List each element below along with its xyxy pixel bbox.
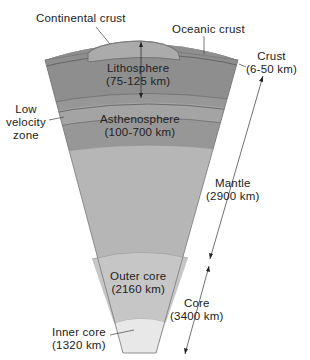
crust-depth: (6-50 km) [246, 63, 297, 76]
core-depth: (3400 km) [170, 310, 224, 323]
mantle-depth: (2900 km) [206, 190, 260, 203]
outer-core-depth: (2160 km) [110, 283, 166, 296]
lithosphere-name: Lithosphere [106, 62, 170, 75]
crust-leader [239, 64, 246, 67]
low-velocity-line-1: Low [6, 103, 46, 116]
core-name: Core [170, 297, 224, 310]
asthenosphere-depth: (100-700 km) [100, 126, 180, 139]
inner-core-depth: (1320 km) [52, 339, 106, 352]
outer-core-name: Outer core [110, 270, 166, 283]
low-velocity-line-3: zone [6, 129, 46, 142]
inner-core-name: Inner core [52, 326, 106, 339]
crust-name: Crust [246, 50, 297, 63]
asthenosphere-label: Asthenosphere (100-700 km) [100, 113, 180, 139]
continental-crust-label: Continental crust [36, 12, 126, 25]
low-velocity-line-2: velocity [6, 116, 46, 129]
low-velocity-zone-label: Low velocity zone [6, 103, 46, 142]
oceanic-crust-label: Oceanic crust [172, 23, 245, 36]
mantle-name: Mantle [206, 177, 260, 190]
core-label: Core (3400 km) [170, 297, 224, 323]
crust-label: Crust (6-50 km) [246, 50, 297, 76]
lithosphere-label: Lithosphere (75-125 km) [106, 62, 170, 88]
outer-core-label: Outer core (2160 km) [110, 270, 166, 296]
mantle-label: Mantle (2900 km) [206, 177, 260, 203]
asthenosphere-name: Asthenosphere [100, 113, 180, 126]
continental-crust-leader [96, 27, 110, 44]
inner-core-label: Inner core (1320 km) [52, 326, 106, 352]
earth-cross-section-diagram: Continental crust Oceanic crust Crust (6… [0, 0, 310, 360]
lithosphere-depth: (75-125 km) [106, 75, 170, 88]
